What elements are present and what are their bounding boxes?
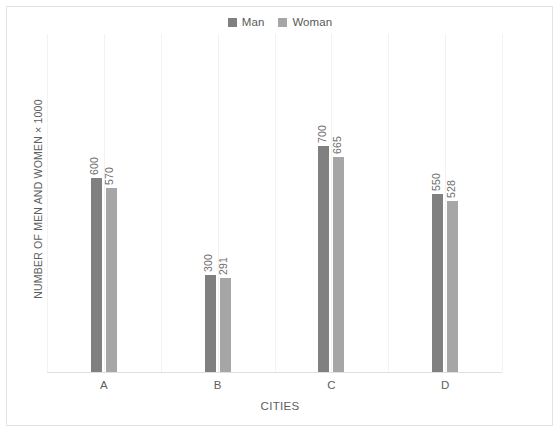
bar-rect [205, 275, 216, 372]
x-axis-tick-labels: ABCD [47, 379, 502, 397]
legend-label-man: Man [242, 16, 265, 28]
x-tick-c: C [327, 379, 335, 391]
chart-legend: ManWoman [0, 16, 560, 28]
bar-d-man[interactable]: 550 [432, 194, 443, 372]
bar-b-man[interactable]: 300 [205, 275, 216, 372]
x-tick-d: D [441, 379, 449, 391]
bar-b-woman[interactable]: 291 [220, 278, 231, 372]
bar-d-woman[interactable]: 528 [447, 201, 458, 372]
legend-entry-man[interactable]: Man [228, 16, 265, 28]
x-tick-a: A [100, 379, 108, 391]
x-tick-b: B [214, 379, 222, 391]
bar-group-a: 600570 [47, 34, 161, 372]
x-axis-title: CITIES [0, 400, 560, 412]
bar-rect [432, 194, 443, 372]
gridline [502, 34, 503, 372]
bar-rect [220, 278, 231, 372]
bar-rect [91, 178, 102, 372]
legend-swatch-woman [278, 18, 287, 27]
bar-chart: ManWoman 600570300291700665550528 ABCD C… [0, 0, 560, 433]
legend-entry-woman[interactable]: Woman [278, 16, 332, 28]
bar-c-man[interactable]: 700 [318, 146, 329, 372]
bar-group-b: 300291 [161, 34, 275, 372]
bar-group-c: 700665 [275, 34, 389, 372]
plot-area: 600570300291700665550528 [47, 34, 502, 372]
bars-layer: 600570300291700665550528 [47, 34, 502, 372]
bar-value-label: 570 [103, 167, 115, 185]
bar-value-label: 600 [88, 157, 100, 175]
bar-value-label: 550 [430, 173, 442, 191]
bar-rect [333, 157, 344, 372]
bar-a-man[interactable]: 600 [91, 178, 102, 372]
x-axis-line [47, 372, 502, 373]
legend-label-woman: Woman [292, 16, 332, 28]
bar-value-label: 665 [331, 136, 343, 154]
bar-rect [106, 188, 117, 372]
bar-c-woman[interactable]: 665 [333, 157, 344, 372]
bar-rect [318, 146, 329, 372]
bar-value-label: 300 [202, 254, 214, 272]
bar-value-label: 528 [445, 180, 457, 198]
bar-a-woman[interactable]: 570 [106, 188, 117, 372]
bar-group-d: 550528 [388, 34, 502, 372]
bar-value-label: 700 [316, 125, 328, 143]
bar-value-label: 291 [217, 257, 229, 275]
legend-swatch-man [228, 18, 237, 27]
bar-rect [447, 201, 458, 372]
y-axis-title: NUMBER OF MEN AND WOMEN × 1000 [32, 99, 44, 299]
